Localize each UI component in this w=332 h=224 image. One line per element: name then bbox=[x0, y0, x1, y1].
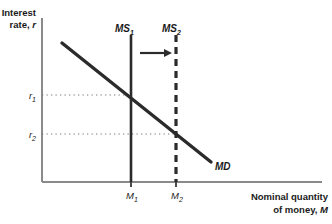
ms2-curve-label: MS2 bbox=[162, 23, 181, 36]
md-curve-label: MD bbox=[215, 161, 231, 172]
m1-label-subscript: 1 bbox=[134, 196, 138, 203]
y-axis-title-line2-text: rate, bbox=[10, 19, 33, 30]
x-tick-label-m2: M2 bbox=[171, 190, 183, 203]
ms1-label-subscript: 1 bbox=[130, 29, 134, 36]
ms2-label-base: MS bbox=[162, 23, 177, 34]
x-axis-title-line1: Nominal quantity bbox=[251, 191, 329, 202]
money-market-diagram: Interest rate, r Nominal quantity of mon… bbox=[0, 0, 332, 224]
y-tick-label-r1: r1 bbox=[29, 90, 36, 103]
y-axis-title-line2: rate, r bbox=[10, 19, 38, 30]
x-tick-label-m1: M1 bbox=[126, 190, 138, 203]
y-tick-label-r2: r2 bbox=[29, 129, 36, 142]
shift-arrow-icon bbox=[140, 49, 172, 57]
ms1-label-base: MS bbox=[115, 23, 130, 34]
ms1-curve-label: MS1 bbox=[115, 23, 134, 36]
x-axis-title-line2-text: of money, bbox=[273, 204, 320, 215]
r1-label-subscript: 1 bbox=[32, 96, 36, 103]
m2-label-subscript: 2 bbox=[178, 196, 183, 203]
r2-label-subscript: 2 bbox=[31, 135, 36, 142]
y-axis-title-line1: Interest bbox=[2, 7, 37, 18]
ms2-label-subscript: 2 bbox=[176, 29, 181, 36]
money-demand-curve bbox=[62, 43, 211, 162]
m1-label-base: M bbox=[126, 190, 134, 201]
x-axis-variable-m: M bbox=[320, 204, 329, 215]
x-axis-title-line2: of money, M bbox=[273, 204, 329, 215]
y-axis-variable-r: r bbox=[32, 19, 37, 30]
diagram-canvas: Interest rate, r Nominal quantity of mon… bbox=[0, 0, 332, 224]
m2-label-base: M bbox=[171, 190, 179, 201]
